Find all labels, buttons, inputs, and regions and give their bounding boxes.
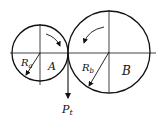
force-label: Pt [61, 103, 73, 117]
gear-a: Ra A [12, 24, 68, 85]
gear-b-label: B [121, 64, 131, 78]
radius-a-label: Ra [20, 57, 33, 70]
gear-diagram: Ra A Rb B Pt [0, 0, 162, 124]
gear-b: Rb B [68, 10, 150, 93]
gear-a-label: A [47, 60, 56, 73]
radius-b-label: Rb [81, 62, 95, 75]
tangential-force: Pt [61, 53, 73, 117]
rotation-arrow-b [84, 27, 104, 43]
rotation-arrow-a [46, 34, 60, 46]
